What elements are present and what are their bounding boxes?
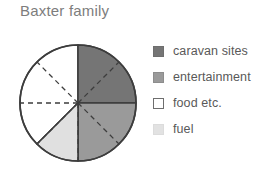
- legend-label-entertainment: entertainment: [173, 70, 251, 84]
- legend-item-fuel[interactable]: fuel: [153, 116, 275, 142]
- page-title: Baxter family: [20, 2, 109, 19]
- legend-item-entertainment[interactable]: entertainment: [153, 64, 275, 90]
- pie-chart-svg: [18, 26, 144, 172]
- chart-page: Baxter family: [0, 0, 278, 175]
- legend-swatch-icon-food-etc: [153, 98, 164, 109]
- legend-item-caravan-sites[interactable]: caravan sites: [153, 38, 275, 64]
- legend: caravan sites entertainment food etc. fu…: [153, 38, 275, 142]
- legend-label-caravan-sites: caravan sites: [173, 44, 248, 58]
- legend-swatch-icon-fuel: [153, 124, 164, 135]
- legend-swatch-icon-entertainment: [153, 72, 164, 83]
- legend-label-food-etc: food etc.: [173, 96, 222, 110]
- legend-label-fuel: fuel: [173, 122, 194, 136]
- pie-chart: [18, 26, 144, 172]
- legend-item-food-etc[interactable]: food etc.: [153, 90, 275, 116]
- legend-swatch-icon-caravan-sites: [153, 46, 164, 57]
